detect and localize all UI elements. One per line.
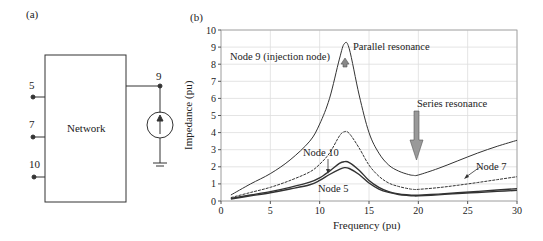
- node-10-dot: [32, 175, 36, 179]
- y-tick-label: 0: [211, 196, 216, 207]
- y-tick-label: 10: [206, 25, 216, 36]
- panel-b-label: (b): [190, 11, 203, 24]
- y-tick-label: 6: [211, 93, 216, 104]
- x-tick-label: 10: [315, 205, 325, 216]
- x-tick-label: 25: [463, 205, 473, 216]
- figure-canvas: (b) 012345678910 051015202530 Impedance …: [0, 0, 543, 241]
- y-tick-label: 5: [211, 110, 216, 121]
- parallel-resonance-arrow-icon: [341, 58, 349, 67]
- series-lines: [231, 42, 517, 199]
- node7-pointer-arrow: [466, 167, 480, 177]
- annotation-node5: Node 5: [318, 183, 349, 194]
- annotation-parallel-resonance: Parallel resonance: [353, 41, 430, 52]
- y-axis-label: Impedance (pu): [182, 80, 195, 150]
- y-tick-label: 3: [211, 144, 216, 155]
- y-tick-label: 7: [211, 76, 216, 87]
- current-source-icon: [147, 112, 173, 138]
- x-tick-label: 5: [268, 205, 273, 216]
- x-axis: 051015202530: [219, 201, 523, 216]
- network-box: [45, 55, 126, 202]
- series-line-7: [231, 131, 517, 197]
- y-tick-label: 8: [211, 59, 216, 70]
- y-axis: 012345678910: [206, 25, 221, 207]
- node-5-dot: [31, 95, 35, 99]
- ground-icon: [153, 163, 167, 166]
- series-line-9: [231, 42, 517, 195]
- y-tick-label: 4: [211, 127, 216, 138]
- node7-pointer-arrowhead-icon: [464, 174, 469, 179]
- series-resonance-arrow-icon: [410, 111, 423, 160]
- x-axis-label: Frequency (pu): [333, 219, 401, 232]
- annotation-node9: Node 9 (injection node): [230, 51, 331, 63]
- y-tick-label: 9: [211, 42, 216, 53]
- x-tick-label: 0: [219, 205, 224, 216]
- annotation-series-resonance: Series resonance: [417, 98, 488, 109]
- x-tick-label: 15: [364, 205, 374, 216]
- network-schematic: [31, 55, 173, 202]
- y-tick-label: 2: [211, 161, 216, 172]
- x-tick-label: 30: [512, 205, 522, 216]
- y-tick-label: 1: [211, 178, 216, 189]
- annotation-node10: Node 10: [303, 147, 339, 158]
- annotation-node7: Node 7: [476, 161, 507, 172]
- x-tick-label: 20: [413, 205, 423, 216]
- node-7-dot: [31, 135, 35, 139]
